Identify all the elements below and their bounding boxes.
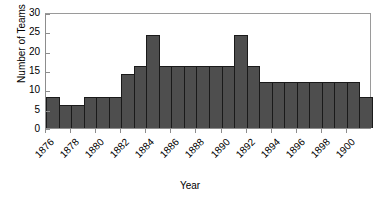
y-axis-tick-mark <box>46 14 50 15</box>
y-axis-tick-mark <box>46 111 50 112</box>
x-axis-tick-mark <box>321 129 322 133</box>
x-axis-tick-mark <box>221 129 222 133</box>
y-axis-tick-label: 20 <box>18 47 40 57</box>
y-axis-tick-mark <box>46 91 50 92</box>
bar <box>146 35 160 128</box>
bar <box>272 82 286 128</box>
bar <box>96 97 110 128</box>
bar <box>297 82 311 128</box>
y-axis-tick-mark <box>46 53 50 54</box>
bar <box>284 82 298 128</box>
bar <box>134 66 148 128</box>
y-axis-tick-label: 5 <box>18 105 40 115</box>
bar <box>347 82 361 128</box>
x-axis-tick-mark <box>271 129 272 133</box>
bar <box>84 97 98 128</box>
x-axis-tick-mark <box>95 129 96 133</box>
bar <box>196 66 210 128</box>
bar <box>222 66 236 128</box>
bar <box>59 105 73 128</box>
y-axis-tick-labels: 051015202530 <box>18 13 40 129</box>
x-axis-tick-mark <box>195 129 196 133</box>
bar <box>71 105 85 128</box>
y-axis-tick-label: 0 <box>18 124 40 134</box>
x-axis-tick-mark <box>246 129 247 133</box>
bar <box>309 82 323 128</box>
bar <box>109 97 123 128</box>
x-axis-tick-mark <box>145 129 146 133</box>
bar-series <box>46 14 370 128</box>
x-axis-title: Year <box>0 180 380 191</box>
bar <box>259 82 273 128</box>
x-axis-tick-mark <box>45 129 46 133</box>
y-axis-tick-label: 15 <box>18 66 40 76</box>
bar <box>121 74 135 128</box>
bar <box>184 66 198 128</box>
y-axis-tick-mark <box>46 33 50 34</box>
y-axis-tick-label: 30 <box>18 8 40 18</box>
bar <box>171 66 185 128</box>
y-axis-tick-mark <box>46 129 50 130</box>
x-axis-tick-mark <box>70 129 71 133</box>
plot-inner <box>46 14 370 128</box>
bar <box>359 97 373 128</box>
y-axis-tick-label: 25 <box>18 27 40 37</box>
bar <box>159 66 173 128</box>
bar <box>334 82 348 128</box>
bar <box>322 82 336 128</box>
x-axis-tick-mark <box>120 129 121 133</box>
bar <box>234 35 248 128</box>
bar <box>209 66 223 128</box>
y-axis-tick-label: 10 <box>18 85 40 95</box>
y-axis-tick-mark <box>46 72 50 73</box>
plot-area <box>45 13 371 129</box>
x-axis-tick-mark <box>170 129 171 133</box>
x-axis-tick-mark <box>346 129 347 133</box>
bar <box>46 97 60 128</box>
bar <box>247 66 261 128</box>
chart-figure: Number of Teams 051015202530 18761878188… <box>0 0 380 198</box>
x-axis-tick-mark <box>296 129 297 133</box>
